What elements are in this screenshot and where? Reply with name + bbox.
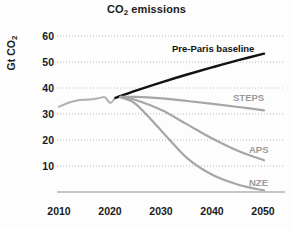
co2-emissions-chart: CO2 emissions Gt CO2 60 50 40 30 20 10 2… xyxy=(0,0,293,230)
plot-area xyxy=(0,0,293,230)
series-paths xyxy=(59,54,264,191)
series-line-nze xyxy=(121,97,265,190)
series-line-historical xyxy=(59,97,121,107)
series-line-pre-paris-baseline xyxy=(115,54,264,98)
series-line-aps xyxy=(121,97,265,160)
series-line-steps xyxy=(121,97,265,111)
gridlines xyxy=(57,36,285,166)
